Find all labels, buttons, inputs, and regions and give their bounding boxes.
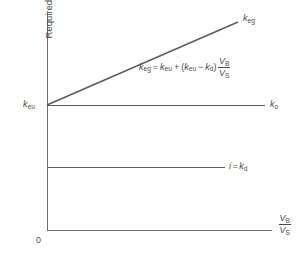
formula-fraction: VB VS (218, 57, 230, 78)
formula-t1-sub: eu (165, 66, 172, 73)
keg-curve-label: keg (243, 14, 255, 23)
kd-curve-label-sub: d (244, 165, 248, 172)
origin-label: 0 (36, 236, 41, 245)
formula-frac-num-sub: B (225, 60, 229, 67)
keg-curve-label-sub: eg (248, 17, 255, 24)
formula-minus: − (198, 63, 203, 72)
keg-formula-annotation: keg = keu + ( keu − kd ) VB VS (139, 57, 230, 78)
x-axis-num-base: V (280, 213, 286, 223)
x-axis-den-sub: S (286, 229, 290, 236)
kd-curve-label-prefix: i (229, 161, 231, 171)
keg-curve-label-base: k (243, 13, 248, 23)
formula-plus: + (174, 63, 179, 72)
formula-close-paren: ) (214, 63, 217, 72)
x-axis-den-base: V (280, 225, 286, 235)
ko-curve-label: ko (270, 100, 278, 109)
y-axis-label: Required return (43, 0, 54, 54)
formula-t2-sub: eu (189, 66, 196, 73)
ko-curve-label-sub: o (275, 103, 279, 110)
formula-lhs-sub: eg (144, 66, 151, 73)
formula-equals: = (153, 63, 158, 72)
x-axis-label: VB VS (277, 214, 291, 235)
kd-curve-label: i=kd (229, 162, 247, 171)
formula-t3-sub: d (210, 66, 214, 73)
x-axis-fraction-numerator: VB (279, 214, 291, 224)
keu-axis-label-sub: eu (28, 103, 35, 110)
kd-horizontal-line (47, 167, 225, 168)
formula-fraction-denominator: VS (218, 67, 230, 78)
keu-axis-label: keu (23, 100, 35, 109)
x-axis-fraction: VB VS (279, 214, 291, 235)
formula-frac-den-sub: S (225, 72, 229, 79)
ko-curve-label-base: k (270, 99, 275, 109)
x-axis-num-sub: B (286, 217, 290, 224)
x-axis-fraction-denominator: VS (279, 224, 291, 235)
figure-canvas: keg ko i=kd keu 0 keg = keu + ( keu − kd… (0, 0, 304, 259)
formula-fraction-numerator: VB (218, 57, 230, 67)
kd-curve-label-equals: = (233, 161, 238, 171)
keu-axis-label-base: k (23, 99, 28, 109)
ko-horizontal-line (47, 105, 265, 106)
